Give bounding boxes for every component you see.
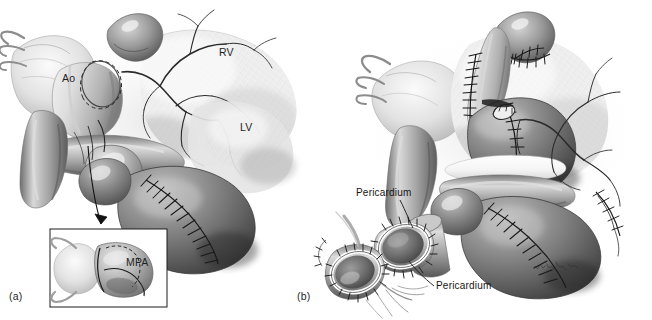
label-ao: Ao [62,73,75,84]
label-lv: LV [240,122,252,133]
label-pericardium-upper: Pericardium [356,188,412,198]
panel-label-b: (b) [297,291,310,302]
label-pericardium-lower: Pericardium [436,281,492,291]
panel-label-a: (a) [9,291,22,302]
label-rv: RV [219,47,234,58]
conus-lobe [79,159,131,205]
mpa-detail-inset [50,229,167,307]
lv-shadow [240,148,296,184]
illustration-canvas [0,0,652,320]
inferior-dome-highlight [480,206,544,246]
dome-highlight [134,178,202,218]
conus-lobe-group [79,159,131,205]
panel-b-illustration [314,12,645,318]
label-mpa: MPA [126,257,149,268]
surgical-figure: Ao RV LV MPA Pericardium Pericardium (a)… [0,0,652,320]
lv-highlight [208,108,268,148]
